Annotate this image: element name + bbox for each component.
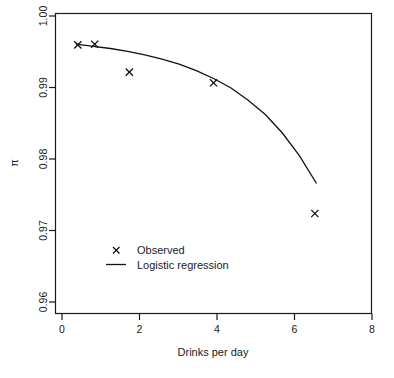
y-axis-tick-labels: 1.00 0.99 0.98 0.97 0.96 — [37, 6, 49, 313]
x-tick-label-8: 8 — [369, 323, 375, 335]
observed-point-marker — [311, 210, 318, 217]
legend-entry-observed: Observed — [113, 244, 185, 256]
observed-point-marker — [210, 79, 217, 86]
y-tick-label-0.98: 0.98 — [37, 149, 49, 170]
y-axis-ticks — [49, 16, 56, 302]
x-axis-title: Drinks per day — [178, 346, 249, 358]
x-tick-label-0: 0 — [59, 323, 65, 335]
y-axis-title: π — [8, 159, 20, 167]
legend-label-observed: Observed — [137, 244, 185, 256]
x-axis-tick-labels: 0 2 4 6 8 — [59, 323, 375, 335]
legend-label-logistic-regression: Logistic regression — [137, 259, 229, 271]
scatter-plot-canvas: 1.00 0.99 0.98 0.97 0.96 π 0 2 4 6 8 Dri… — [0, 0, 394, 378]
chart-figure: 1.00 0.99 0.98 0.97 0.96 π 0 2 4 6 8 Dri… — [0, 0, 394, 378]
y-tick-label-1.00: 1.00 — [37, 6, 49, 27]
y-tick-label-0.96: 0.96 — [37, 292, 49, 313]
logistic-regression-curve — [76, 44, 316, 183]
legend-entry-logistic-regression: Logistic regression — [106, 259, 229, 271]
observed-data-markers — [74, 41, 318, 217]
observed-point-marker — [126, 68, 133, 75]
x-tick-label-2: 2 — [137, 323, 143, 335]
y-tick-label-0.97: 0.97 — [37, 220, 49, 241]
x-tick-label-6: 6 — [292, 323, 298, 335]
chart-legend: Observed Logistic regression — [106, 244, 229, 271]
y-tick-label-0.99: 0.99 — [37, 77, 49, 98]
x-tick-label-4: 4 — [214, 323, 220, 335]
x-axis-ticks — [62, 314, 372, 321]
